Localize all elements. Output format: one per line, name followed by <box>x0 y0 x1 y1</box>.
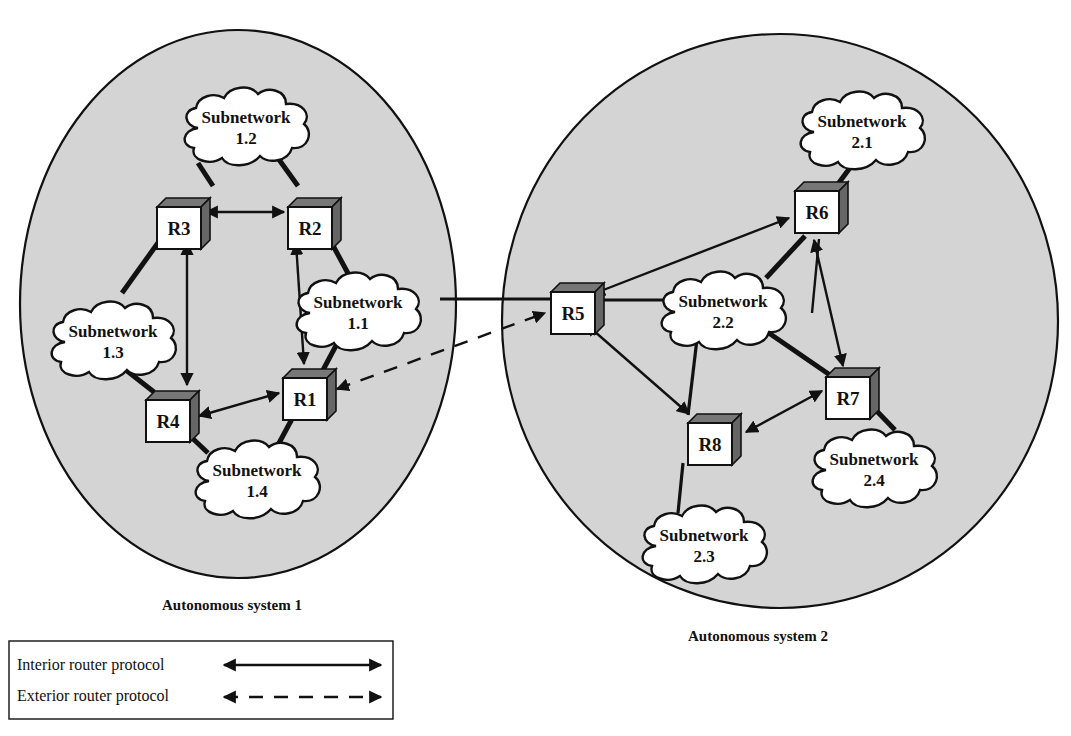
router-label: R6 <box>805 202 828 223</box>
subnetwork-name: Subnetwork <box>69 322 158 341</box>
routing-diagram: Subnetwork1.1Subnetwork1.2Subnetwork1.3S… <box>0 0 1071 736</box>
autonomous-system-label: Autonomous system 1 <box>162 597 302 613</box>
router-r1: R1 <box>283 369 336 420</box>
legend-interior-label: Interior router protocol <box>17 656 165 674</box>
router-r7: R7 <box>826 368 879 419</box>
router-label: R5 <box>561 303 584 324</box>
router-r2: R2 <box>288 198 341 249</box>
router-r5: R5 <box>551 283 604 334</box>
router-box-side <box>870 368 879 419</box>
router-r4: R4 <box>146 391 199 442</box>
router-label: R2 <box>298 218 321 239</box>
subnetwork-name: Subnetwork <box>660 526 749 545</box>
subnetwork-number: 1.4 <box>246 482 268 501</box>
subnetwork-name: Subnetwork <box>202 108 291 127</box>
legend-exterior-label: Exterior router protocol <box>17 687 170 705</box>
router-box-side <box>839 182 848 233</box>
subnetwork-name: Subnetwork <box>818 112 907 131</box>
subnetwork-number: 1.1 <box>347 314 368 333</box>
subnetwork-name: Subnetwork <box>830 450 919 469</box>
router-box-side <box>190 391 199 442</box>
legend-box <box>9 641 393 719</box>
subnetwork-number: 2.4 <box>863 471 885 490</box>
router-box-side <box>332 198 341 249</box>
subnetwork-name: Subnetwork <box>314 293 403 312</box>
subnetwork-number: 1.2 <box>235 129 256 148</box>
router-label: R1 <box>293 389 316 410</box>
router-label: R8 <box>698 434 721 455</box>
router-label: R7 <box>836 388 860 409</box>
router-box-side <box>201 198 210 249</box>
router-label: R4 <box>156 411 180 432</box>
router-box-side <box>732 414 741 465</box>
subnetwork-number: 2.1 <box>851 133 872 152</box>
subnetwork-name: Subnetwork <box>213 461 302 480</box>
router-label: R3 <box>167 218 190 239</box>
router-r6: R6 <box>795 182 848 233</box>
router-r3: R3 <box>157 198 210 249</box>
router-r8: R8 <box>688 414 741 465</box>
router-box-side <box>595 283 604 334</box>
subnetwork-number: 2.3 <box>693 547 714 566</box>
subnetwork-number: 2.2 <box>712 313 733 332</box>
router-box-side <box>327 369 336 420</box>
subnetwork-number: 1.3 <box>102 343 123 362</box>
legend: Interior router protocol Exterior router… <box>9 641 393 719</box>
autonomous-system-label: Autonomous system 2 <box>688 628 828 644</box>
subnetwork-name: Subnetwork <box>679 292 768 311</box>
